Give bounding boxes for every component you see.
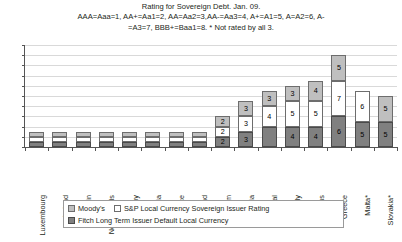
bar-segment — [29, 142, 44, 147]
bar-segment: 6 — [355, 91, 370, 122]
bar-segment: 4 — [262, 106, 277, 126]
sp-swatch-icon — [114, 205, 121, 212]
bar-group — [169, 132, 184, 147]
chart-title-block: Rating for Sovereign Debt. Jan. 09. AAA=… — [0, 2, 402, 33]
legend-label-fitch: Fitch Long Term Issuer Default Local Cur… — [78, 217, 228, 224]
x-axis-label: Luxembourg — [39, 195, 46, 236]
bar-segment — [52, 142, 67, 147]
fitch-swatch-icon — [68, 217, 75, 224]
bar-group — [99, 132, 114, 147]
bar-group — [145, 132, 160, 147]
sovereign-debt-rating-chart: Rating for Sovereign Debt. Jan. 09. AAA=… — [0, 0, 402, 242]
chart-subtitle-line-2: =A3=7, BBB+=Baa1=8. * Not rated by all 3… — [0, 23, 402, 33]
chart-title: Rating for Sovereign Debt. Jan. 09. — [0, 2, 402, 12]
bar-segment: 5 — [285, 101, 300, 127]
bar-segment — [262, 127, 277, 147]
bar-segment: 5 — [355, 122, 370, 148]
bar-segment: 2 — [215, 137, 230, 147]
bar-segment: 3 — [238, 116, 253, 131]
x-axis-label: Slovakia* — [387, 195, 394, 225]
legend-item-fitch: Fitch Long Term Issuer Default Local Cur… — [68, 217, 228, 224]
bar-segment — [145, 142, 160, 147]
bar-segment: 3 — [285, 86, 300, 101]
chart-subtitle-line-1: AAA=Aaa=1, AA+=Aa1=2, AA=Aa2=3,AA-=Aa3=4… — [0, 12, 402, 22]
bar-segment: 4 — [308, 127, 323, 147]
bar-group — [192, 132, 207, 147]
bar-segment: 5 — [378, 96, 393, 122]
legend-label-sp: S&P Local Currency Sovereign Issuer Rati… — [124, 205, 269, 212]
bar-segment — [169, 142, 184, 147]
bar-group — [29, 132, 44, 147]
x-axis-tick-mark — [397, 147, 398, 151]
bar-group: 65 — [355, 91, 370, 147]
x-axis-labels: LuxembourgIrelandSpainNetherlandsGermany… — [24, 150, 396, 196]
bar-segment: 3 — [238, 101, 253, 116]
bar-segment: 5 — [378, 122, 393, 148]
legend-label-moodys: Moody's — [78, 205, 105, 212]
bar-group: 34 — [262, 91, 277, 147]
bar-segment: 4 — [285, 127, 300, 147]
moodys-swatch-icon — [68, 205, 75, 212]
bar-group: 354 — [285, 86, 300, 147]
bar-group — [122, 132, 137, 147]
bar-group: 576 — [331, 55, 346, 147]
legend-item-moodys: Moody's — [68, 205, 105, 212]
bar-series-container: 222333343544545766555 — [25, 45, 397, 147]
bar-group: 454 — [308, 81, 323, 147]
legend-item-sp: S&P Local Currency Sovereign Issuer Rati… — [114, 205, 269, 212]
bar-group: 55 — [378, 96, 393, 147]
legend-row-1: Moody's S&P Local Currency Sovereign Iss… — [68, 203, 339, 215]
chart-legend: Moody's S&P Local Currency Sovereign Iss… — [63, 200, 344, 228]
bar-segment: 5 — [331, 55, 346, 81]
bar-segment: 7 — [331, 81, 346, 117]
bar-segment — [192, 142, 207, 147]
bar-segment: 2 — [215, 116, 230, 126]
plot-area: 02468101214161820 222333343544545766555 — [24, 45, 397, 148]
bar-segment: 6 — [331, 116, 346, 147]
bar-segment: 2 — [215, 127, 230, 137]
bar-group — [76, 132, 91, 147]
bar-segment: 5 — [308, 101, 323, 127]
bar-group: 333 — [238, 101, 253, 147]
bar-group: 222 — [215, 116, 230, 147]
legend-row-2: Fitch Long Term Issuer Default Local Cur… — [68, 215, 339, 227]
bar-segment — [99, 142, 114, 147]
bar-segment: 3 — [238, 132, 253, 147]
bar-group — [52, 132, 67, 147]
x-axis-label: Malta* — [364, 195, 371, 216]
bar-segment — [122, 142, 137, 147]
bar-segment — [76, 142, 91, 147]
bar-segment: 3 — [262, 91, 277, 106]
bar-segment: 4 — [308, 81, 323, 101]
